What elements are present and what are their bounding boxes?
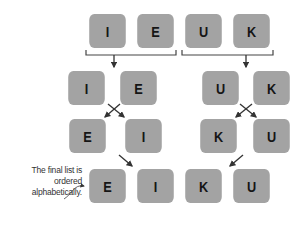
merge-arrow-right-icon bbox=[230, 155, 243, 166]
annotation-line-3: alphabetically. bbox=[18, 187, 82, 198]
bracket-left bbox=[86, 50, 176, 55]
annotation-text: The final list is ordered alphabetically… bbox=[18, 165, 82, 198]
annotation-line-1: The final list is bbox=[18, 165, 82, 176]
swap-arrows-right-icon bbox=[236, 104, 256, 117]
merge-arrow-left-icon bbox=[119, 155, 132, 166]
swap-arrows-left-icon bbox=[105, 104, 124, 117]
bracket-right bbox=[182, 50, 273, 55]
annotation-line-2: ordered bbox=[18, 176, 82, 187]
